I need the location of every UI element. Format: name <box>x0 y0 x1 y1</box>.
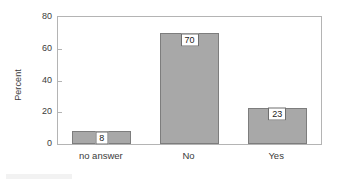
y-axis-tick-label: 20 <box>26 106 52 116</box>
x-axis-tick-label: No <box>182 150 194 162</box>
bar-value-label: 8 <box>95 132 108 145</box>
x-axis-tick-label: no answer <box>79 150 123 162</box>
y-axis-tick-labels: 020406080 <box>26 11 52 150</box>
y-axis-tick-label: 0 <box>26 138 52 148</box>
bar-value-label: 70 <box>180 33 198 46</box>
y-axis-tick-mark <box>58 49 62 50</box>
y-axis-tick-label: 80 <box>26 11 52 21</box>
bar <box>160 33 219 144</box>
bar-chart-figure: Percent 020406080 87023 no answerNoYes <box>0 0 342 182</box>
x-axis-tick-labels: no answerNoYes <box>57 150 322 166</box>
y-axis-title: Percent <box>10 55 26 115</box>
y-axis-tick-label: 60 <box>26 43 52 53</box>
bar-value-label: 23 <box>268 108 286 121</box>
y-axis-tick-mark <box>58 81 62 82</box>
x-axis-tick-label: Yes <box>268 150 284 162</box>
y-axis-tick-label: 40 <box>26 75 52 85</box>
scan-artifact <box>6 174 72 179</box>
plot-area: 87023 <box>57 16 322 145</box>
y-axis-title-text: Percent <box>13 69 23 101</box>
y-axis-tick-mark <box>58 112 62 113</box>
